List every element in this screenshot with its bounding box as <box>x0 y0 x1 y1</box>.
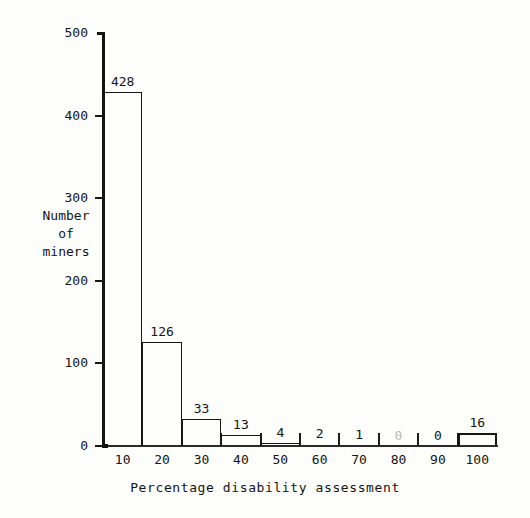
bar-value-10: 428 <box>93 75 153 89</box>
plot-area: 0100200300400500 42812633134210016 10203… <box>0 0 530 518</box>
bar-value-30: 33 <box>172 402 232 416</box>
y-tick-500 <box>97 32 104 35</box>
bar-100 <box>458 433 497 446</box>
y-axis-title: Number of miners <box>30 207 102 261</box>
y-axis-title-line-3: miners <box>30 243 102 261</box>
y-tick-label-200: 200 <box>42 274 88 287</box>
bar-value-20: 126 <box>132 325 192 339</box>
y-tick-label-300: 300 <box>42 191 88 204</box>
x-axis-title: Percentage disability assessment <box>0 480 530 495</box>
histogram-chart: 0100200300400500 42812633134210016 10203… <box>0 0 530 518</box>
bar-10 <box>103 92 142 446</box>
bar-value-100: 16 <box>447 416 507 430</box>
y-tick-label-0: 0 <box>42 439 88 452</box>
y-tick-label-400: 400 <box>42 109 88 122</box>
bar-20 <box>142 342 181 446</box>
y-tick-label-100: 100 <box>42 356 88 369</box>
y-axis-title-line-1: Number <box>30 207 102 225</box>
y-axis-title-line-2: of <box>30 225 102 243</box>
bar-50 <box>261 443 300 446</box>
x-axis-label-100: 100 <box>447 452 507 467</box>
y-tick-label-500: 500 <box>42 26 88 39</box>
